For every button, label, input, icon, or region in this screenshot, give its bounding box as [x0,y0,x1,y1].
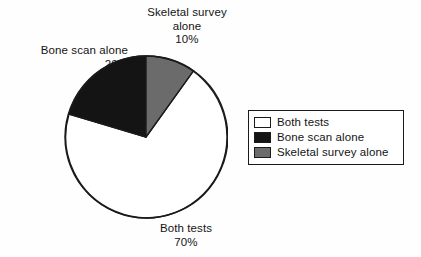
pie-label-line: alone [133,20,241,34]
legend-item-both-tests[interactable]: Both tests [254,115,398,129]
legend-swatch-bone-scan-alone [254,132,271,143]
chart-page: Skeletal survey alone 10% Bone scan alon… [0,0,421,257]
pie-label-bone-scan-alone: Bone scan alone 20% [2,44,128,71]
pie-label-line: Bone scan alone [2,44,128,58]
legend-item-bone-scan-alone[interactable]: Bone scan alone [254,130,398,144]
legend-label: Both tests [277,116,329,128]
pie-label-line: Both tests [132,222,240,236]
pie-chart-svg [64,55,228,219]
pie-label-line: Skeletal survey [133,6,241,20]
pie-label-value: 20% [2,58,128,72]
legend-swatch-skeletal-survey-alone [254,147,271,158]
legend-swatch-both-tests [254,117,271,128]
chart-legend: Both tests Bone scan alone Skeletal surv… [248,110,404,165]
pie-label-value: 70% [132,236,240,250]
pie-label-skeletal-survey-alone: Skeletal survey alone 10% [133,6,241,47]
pie-chart [64,55,228,219]
legend-label: Skeletal survey alone [277,146,388,158]
legend-label: Bone scan alone [277,131,364,143]
pie-label-both-tests: Both tests 70% [132,222,240,249]
pie-label-value: 10% [133,33,241,47]
legend-item-skeletal-survey-alone[interactable]: Skeletal survey alone [254,145,398,159]
